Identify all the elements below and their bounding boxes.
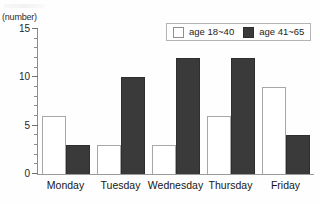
legend-label: age 41~65	[259, 27, 304, 37]
bar-monday-series-1	[42, 116, 66, 174]
y-tick-minor	[34, 134, 38, 135]
y-tick-major	[32, 125, 38, 126]
y-tick-minor	[34, 115, 38, 116]
y-tick-minor	[34, 67, 38, 68]
bar-wednesday-series-1	[152, 145, 176, 174]
y-tick-minor	[34, 105, 38, 106]
legend-entry-age-18-40: age 18~40	[173, 27, 234, 38]
y-tick-minor	[34, 86, 38, 87]
y-tick-minor	[34, 163, 38, 164]
x-tick-label-wednesday: Wednesday	[148, 180, 203, 191]
bar-friday-series-2	[286, 135, 310, 174]
x-tick-label-tuesday: Tuesday	[101, 180, 141, 191]
bar-chart: (number) 051015 MondayTuesdayWednesdayTh…	[0, 0, 320, 204]
y-tick-major	[32, 173, 38, 174]
y-tick-minor	[34, 144, 38, 145]
y-tick-major	[32, 76, 38, 77]
legend-entry-age-41-65: age 41~65	[243, 27, 304, 38]
x-tick-label-friday: Friday	[271, 180, 300, 191]
y-tick-minor	[34, 57, 38, 58]
y-tick-minor	[34, 47, 38, 48]
bar-tuesday-series-2	[121, 77, 145, 174]
y-tick-label: 15	[19, 24, 30, 34]
x-tick-label-monday: Monday	[47, 180, 84, 191]
bar-thursday-series-2	[231, 58, 255, 174]
scan-artifact	[4, 4, 44, 8]
x-tick-label-thursday: Thursday	[209, 180, 253, 191]
y-axis-unit-label: (number)	[2, 12, 37, 22]
y-tick-major	[32, 28, 38, 29]
plot-area: 051015	[38, 29, 313, 174]
x-axis-line	[37, 174, 314, 175]
legend-label: age 18~40	[189, 27, 234, 37]
light-swatch-icon	[173, 27, 184, 38]
y-tick-label: 0	[24, 169, 30, 179]
bar-friday-series-1	[262, 87, 286, 174]
y-tick-minor	[34, 154, 38, 155]
y-tick-minor	[34, 38, 38, 39]
bar-wednesday-series-2	[176, 58, 200, 174]
dark-swatch-icon	[243, 27, 254, 38]
y-tick-minor	[34, 96, 38, 97]
chart-legend: age 18~40 age 41~65	[166, 23, 311, 41]
bar-tuesday-series-1	[97, 145, 121, 174]
bar-monday-series-2	[66, 145, 90, 174]
bar-thursday-series-1	[207, 116, 231, 174]
y-tick-label: 5	[24, 121, 30, 131]
y-tick-label: 10	[19, 72, 30, 82]
